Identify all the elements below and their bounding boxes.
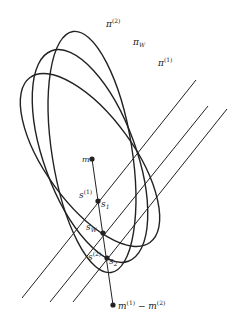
parallel-line	[50, 106, 208, 302]
label-m: m	[82, 155, 90, 164]
diagram-canvas: π(2)πWπ(1)ms(1)s1sWs(2)s2m(1) − m(2)	[0, 0, 238, 314]
point-mdiff	[110, 302, 115, 307]
label-s2: s(2)	[88, 250, 101, 262]
label-piW: πW	[132, 37, 146, 48]
point-sW	[100, 230, 105, 235]
point-m	[89, 156, 94, 161]
label-s2-alt: s2	[109, 256, 118, 267]
ellipse-piW	[8, 35, 171, 277]
label-s1: s(1)	[79, 188, 92, 200]
label-s1-alt: s1	[101, 199, 109, 210]
label-pi2: π(2)	[105, 17, 120, 29]
ellipse-pi2	[33, 25, 150, 279]
label-mdiff: m(1) − m(2)	[118, 299, 165, 311]
label-sW: sW	[86, 222, 98, 233]
label-pi1: π(1)	[157, 56, 172, 68]
point-s1	[95, 198, 100, 203]
